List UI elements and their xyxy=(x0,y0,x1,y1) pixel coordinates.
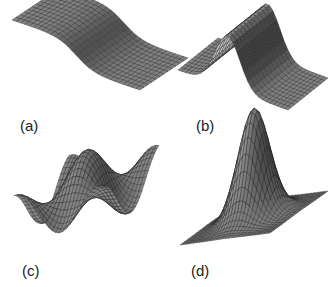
panel-label-c: (c) xyxy=(22,262,40,279)
panel-label-d: (d) xyxy=(191,262,209,279)
surface-b xyxy=(178,4,328,110)
surface-c xyxy=(14,145,159,233)
figure: (a) (b) (c) (d) xyxy=(0,0,333,287)
panel-label-a: (a) xyxy=(20,117,38,134)
surface-plots xyxy=(0,0,333,287)
surface-a xyxy=(12,0,188,90)
panel-label-b: (b) xyxy=(196,117,214,134)
